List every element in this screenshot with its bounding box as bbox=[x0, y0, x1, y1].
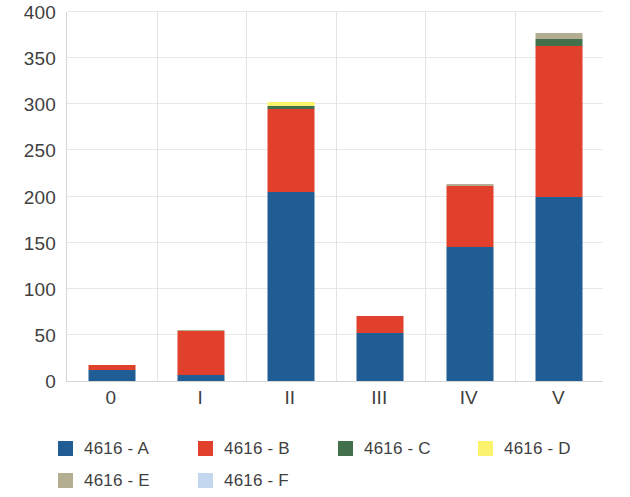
x-axis-tick-labels: 0IIIIIIIVV bbox=[66, 386, 603, 416]
legend-label: 4616 - F bbox=[224, 472, 289, 489]
legend-label: 4616 - E bbox=[84, 472, 150, 489]
legend-swatch-icon bbox=[198, 441, 213, 456]
bar-segment[interactable] bbox=[267, 192, 314, 381]
bar-segment[interactable] bbox=[88, 370, 135, 381]
bar-group[interactable] bbox=[157, 12, 247, 381]
y-axis-tick-label: 50 bbox=[0, 325, 56, 344]
plot-wrapper: 050100150200250300350400 0IIIIIIIVV bbox=[0, 0, 630, 420]
x-axis-tick-label: V bbox=[552, 386, 565, 410]
bar-segment[interactable] bbox=[446, 247, 493, 381]
legend-swatch-icon bbox=[58, 473, 73, 488]
y-axis-tick-labels: 050100150200250300350400 bbox=[0, 0, 56, 420]
y-axis-tick-label: 400 bbox=[0, 3, 56, 22]
legend-item[interactable]: 4616 - C bbox=[338, 432, 478, 464]
plot-area bbox=[66, 12, 603, 381]
y-axis-tick-label: 100 bbox=[0, 279, 56, 298]
legend-item[interactable]: 4616 - F bbox=[198, 464, 338, 496]
y-axis-tick-label: 250 bbox=[0, 141, 56, 160]
bar-group[interactable] bbox=[515, 12, 605, 381]
x-axis-tick-label: II bbox=[284, 386, 295, 410]
bar-stack[interactable] bbox=[267, 102, 314, 382]
bar-stack[interactable] bbox=[446, 184, 493, 381]
bar-segment[interactable] bbox=[178, 375, 225, 381]
legend-label: 4616 - D bbox=[504, 440, 571, 457]
x-axis-tick-label: 0 bbox=[105, 386, 116, 410]
bar-group[interactable] bbox=[246, 12, 336, 381]
legend-swatch-icon bbox=[478, 441, 493, 456]
bar-segment[interactable] bbox=[536, 46, 583, 196]
y-axis-tick-label: 350 bbox=[0, 49, 56, 68]
legend-row: 4616 - E4616 - F bbox=[58, 464, 618, 496]
bar-segment[interactable] bbox=[178, 331, 225, 374]
legend-label: 4616 - C bbox=[364, 440, 431, 457]
x-axis-tick-label: III bbox=[371, 386, 387, 410]
legend-item[interactable]: 4616 - D bbox=[478, 432, 618, 464]
bar-group[interactable] bbox=[67, 12, 157, 381]
y-axis-tick-label: 0 bbox=[0, 372, 56, 391]
bar-segment[interactable] bbox=[357, 333, 404, 381]
bar-segment[interactable] bbox=[357, 316, 404, 334]
bar-group[interactable] bbox=[425, 12, 515, 381]
x-axis-tick-label: I bbox=[198, 386, 203, 410]
bar-segment[interactable] bbox=[267, 109, 314, 192]
legend-label: 4616 - A bbox=[84, 440, 149, 457]
y-axis-tick-label: 150 bbox=[0, 233, 56, 252]
legend-item[interactable]: 4616 - A bbox=[58, 432, 198, 464]
legend-label: 4616 - B bbox=[224, 440, 290, 457]
legend-item[interactable]: 4616 - B bbox=[198, 432, 338, 464]
x-axis-tick-label: IV bbox=[460, 386, 478, 410]
legend-swatch-icon bbox=[338, 441, 353, 456]
legend-item[interactable]: 4616 - E bbox=[58, 464, 198, 496]
bar-group[interactable] bbox=[336, 12, 426, 381]
y-axis-tick-label: 300 bbox=[0, 95, 56, 114]
bars-layer bbox=[67, 12, 603, 381]
legend-swatch-icon bbox=[198, 473, 213, 488]
y-axis-tick-label: 200 bbox=[0, 187, 56, 206]
legend-row: 4616 - A4616 - B4616 - C4616 - D bbox=[58, 432, 618, 464]
bar-stack[interactable] bbox=[357, 316, 404, 381]
bar-segment[interactable] bbox=[536, 39, 583, 46]
bar-segment[interactable] bbox=[446, 186, 493, 247]
chart-legend: 4616 - A4616 - B4616 - C4616 - D4616 - E… bbox=[58, 432, 618, 496]
bar-segment[interactable] bbox=[536, 197, 583, 382]
legend-swatch-icon bbox=[58, 441, 73, 456]
bar-stack[interactable] bbox=[88, 365, 135, 381]
bar-stack[interactable] bbox=[178, 330, 225, 381]
bar-stack[interactable] bbox=[536, 33, 583, 381]
stacked-bar-chart: 050100150200250300350400 0IIIIIIIVV 4616… bbox=[0, 0, 630, 497]
